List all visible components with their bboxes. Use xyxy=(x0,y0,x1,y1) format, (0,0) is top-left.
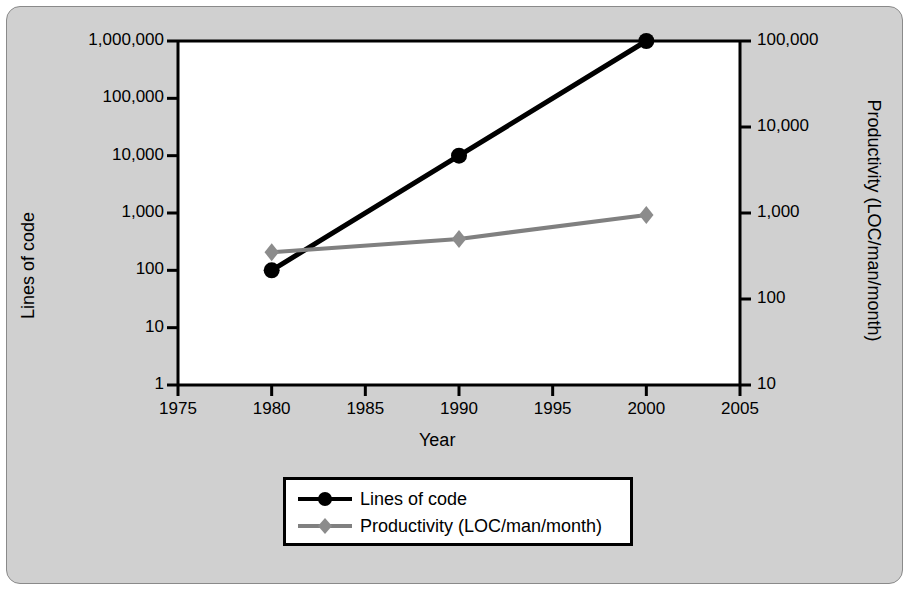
x-tick-label: 2005 xyxy=(700,399,780,419)
x-tick-label: 1990 xyxy=(419,399,499,419)
legend-label: Productivity (LOC/man/month) xyxy=(360,516,602,537)
left-tick-label: 10 xyxy=(16,317,164,337)
right-tick-label: 100,000 xyxy=(757,30,867,50)
x-tick-label: 1995 xyxy=(513,399,593,419)
legend-item-lines-of-code: Lines of code xyxy=(296,486,467,512)
right-tick-label: 10 xyxy=(757,374,867,394)
right-tick-label: 10,000 xyxy=(757,116,867,136)
left-axis-ticks xyxy=(167,41,178,385)
left-tick-label: 1,000 xyxy=(16,202,164,222)
left-tick-label: 1,000,000 xyxy=(16,30,164,50)
right-axis-ticks xyxy=(740,41,751,385)
left-tick-label: 100 xyxy=(16,259,164,279)
legend: Lines of code Productivity (LOC/man/mont… xyxy=(283,477,633,546)
diamond-marker-icon xyxy=(296,515,354,537)
circle-marker-icon xyxy=(296,488,354,510)
left-tick-label: 100,000 xyxy=(16,87,164,107)
plot-area-background xyxy=(178,41,740,385)
x-tick-label: 2000 xyxy=(606,399,686,419)
right-tick-label: 1,000 xyxy=(757,202,867,222)
x-tick-label: 1975 xyxy=(138,399,218,419)
right-tick-label: 100 xyxy=(757,288,867,308)
left-tick-label: 1 xyxy=(16,374,164,394)
legend-item-productivity: Productivity (LOC/man/month) xyxy=(296,513,602,539)
x-axis-ticks xyxy=(178,385,740,396)
x-tick-label: 1980 xyxy=(232,399,312,419)
x-axis-title: Year xyxy=(419,430,455,451)
x-tick-label: 1985 xyxy=(325,399,405,419)
left-tick-label: 10,000 xyxy=(16,145,164,165)
legend-label: Lines of code xyxy=(360,489,467,510)
chart-figure: Lines of code Productivity (LOC/man/mont… xyxy=(0,0,913,593)
